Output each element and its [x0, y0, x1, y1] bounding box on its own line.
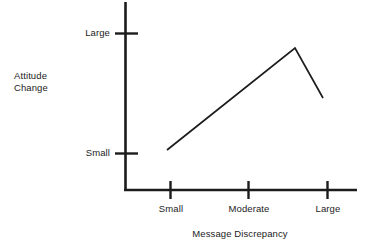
y-tick-label-small: Small — [28, 147, 110, 159]
y-tick-label-large: Large — [28, 27, 110, 39]
y-axis-title-line-1: Attitude — [14, 70, 47, 81]
data-line-attitude-change — [167, 48, 323, 150]
x-tick-label-large: Large — [316, 203, 341, 215]
y-axis-title: Attitude Change — [14, 70, 48, 93]
figure-container: Large Small Attitude Change Small Modera… — [0, 0, 373, 249]
x-axis-title: Message Discrepancy — [192, 228, 287, 240]
x-tick-label-moderate: Moderate — [229, 203, 270, 215]
y-axis-title-line-2: Change — [14, 82, 48, 94]
x-tick-label-small: Small — [159, 203, 183, 215]
